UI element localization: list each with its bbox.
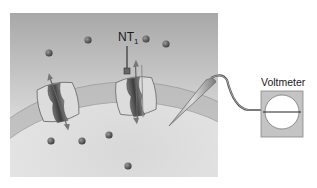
ion	[142, 35, 149, 42]
membrane-potential-diagram: NT1 Voltmeter	[0, 0, 317, 188]
nt1-molecule	[124, 68, 130, 74]
ion	[162, 40, 169, 47]
ion	[45, 49, 52, 56]
voltmeter	[261, 91, 303, 137]
ion	[84, 36, 91, 43]
ion	[105, 131, 112, 138]
nt1-label: NT1	[118, 30, 138, 46]
diagram-canvas	[0, 0, 317, 188]
ion	[124, 162, 131, 169]
voltmeter-label: Voltmeter	[261, 76, 305, 88]
ion	[78, 137, 85, 144]
electrode-wire	[211, 75, 262, 110]
ion	[47, 137, 54, 144]
